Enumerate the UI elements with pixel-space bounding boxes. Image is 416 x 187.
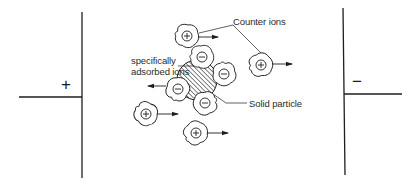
adsorbed-ion-top — [190, 45, 214, 68]
positive-sign: + — [61, 76, 71, 93]
negative-electrode — [343, 8, 402, 175]
counter-ion-1 — [173, 22, 218, 49]
counter-ions-label: Counter ions — [233, 16, 286, 27]
negative-sign: − — [352, 73, 362, 90]
solid-particle-label: Solid particle — [249, 98, 302, 109]
adsorbed-ions-label-line2: adsorbed ions — [131, 66, 189, 77]
adsorbed-ions-label-line1: specifically — [131, 55, 176, 66]
counter-ion-2 — [246, 50, 292, 80]
positive-electrode — [19, 12, 82, 178]
counter-ion-4 — [179, 117, 228, 150]
counter-ion-3 — [130, 98, 178, 130]
